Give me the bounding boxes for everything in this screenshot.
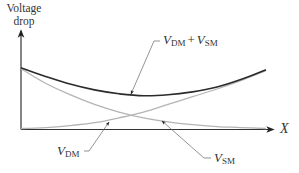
y-axis-title-line2: drop bbox=[0, 15, 48, 28]
sum-curve bbox=[21, 68, 266, 96]
x-axis-label: X bbox=[280, 121, 289, 137]
vdm-label: VDM bbox=[57, 143, 79, 159]
sum-label-v2: V bbox=[197, 32, 205, 47]
vsm-label-v: V bbox=[214, 150, 222, 165]
sum-label: VDM+VSM bbox=[163, 32, 218, 48]
vsm-label: VSM bbox=[214, 150, 235, 166]
y-axis-title-line1: Voltage bbox=[0, 2, 48, 15]
vsm-leader-line bbox=[162, 121, 211, 158]
sum-label-plus: + bbox=[185, 32, 196, 47]
sum-label-sub2: SM bbox=[205, 38, 218, 48]
x-axis-label-text: X bbox=[280, 121, 289, 136]
vdm-leader-line bbox=[84, 122, 109, 151]
y-axis-title: Voltage drop bbox=[0, 2, 48, 28]
vdm-label-v: V bbox=[57, 143, 65, 158]
vsm-curve bbox=[21, 69, 266, 129]
vdm-curve bbox=[21, 71, 266, 129]
vsm-label-sub: SM bbox=[222, 156, 235, 166]
vdm-label-sub: DM bbox=[65, 149, 80, 159]
sum-label-v1: V bbox=[163, 32, 171, 47]
sum-leader-line bbox=[131, 41, 160, 94]
sum-label-sub1: DM bbox=[171, 38, 186, 48]
